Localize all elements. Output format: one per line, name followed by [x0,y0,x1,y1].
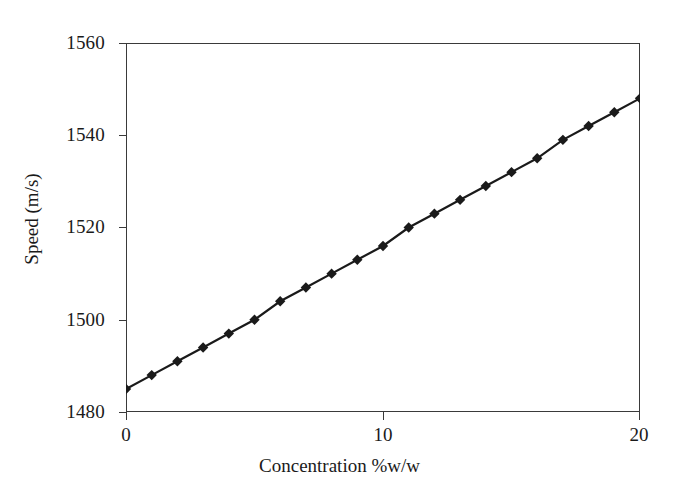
data-point-marker [635,93,640,103]
data-point-marker [506,167,516,177]
data-point-marker [172,356,182,366]
speed-vs-concentration-chart: 1560 1540 1520 1500 1480 0 10 20 Concent… [0,0,679,498]
data-point-marker [198,342,208,352]
data-point-marker [301,282,311,292]
data-point-marker [583,121,593,131]
data-series-layer [126,43,640,412]
data-point-marker [352,255,362,265]
data-point-marker [429,208,439,218]
x-tick-20 [639,412,640,420]
y-tick-label-1560: 1560 [35,33,105,52]
x-tick-label-0: 0 [96,424,156,445]
x-tick-0 [126,412,127,420]
data-point-marker [609,107,619,117]
y-tick-label-1480: 1480 [35,402,105,421]
x-tick-label-20: 20 [609,424,669,445]
data-point-marker [126,384,131,394]
data-point-marker [481,181,491,191]
x-tick-label-10: 10 [353,424,413,445]
y-tick-label-1520: 1520 [35,217,105,236]
data-point-marker [147,370,157,380]
data-point-marker [455,195,465,205]
data-point-marker [224,328,234,338]
y-axis-title: Speed (m/s) [21,109,43,329]
x-tick-10 [383,412,384,420]
y-tick-label-1540: 1540 [35,125,105,144]
data-point-marker [326,268,336,278]
y-tick-label-1500: 1500 [35,310,105,329]
x-axis-title: Concentration %w/w [0,455,679,477]
